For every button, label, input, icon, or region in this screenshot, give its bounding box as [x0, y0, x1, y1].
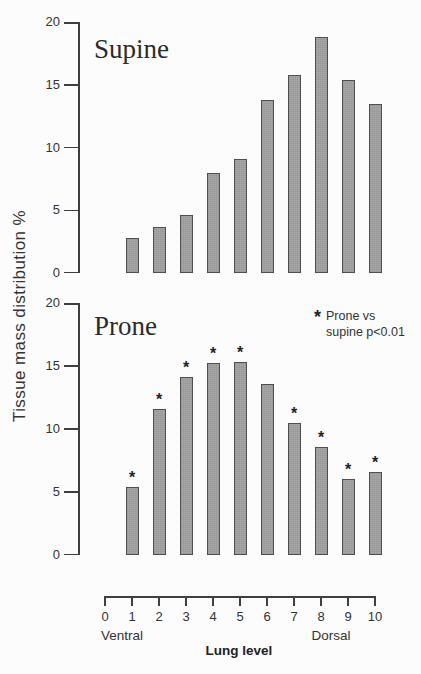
- bar-level-10: [369, 472, 382, 555]
- y-tick: [64, 365, 78, 367]
- y-tick-label: 15: [32, 77, 60, 93]
- bar-level-4: [207, 173, 220, 273]
- significance-asterisk: *: [230, 346, 250, 359]
- significance-asterisk: *: [122, 471, 142, 484]
- prone-plot: 05101520*********: [0, 303, 421, 555]
- y-tick-label: 10: [32, 140, 60, 156]
- significance-asterisk: *: [311, 431, 331, 444]
- bar-level-8: [315, 37, 328, 273]
- asterisk-icon: *: [314, 308, 321, 340]
- bar-level-4: [207, 363, 220, 555]
- x-tick-label: 4: [202, 609, 224, 624]
- x-axis: Ventral Dorsal Lung level 012345678910: [0, 588, 421, 674]
- y-tick: [64, 554, 78, 556]
- y-tick: [64, 272, 78, 274]
- legend-line-1: Prone vs: [326, 309, 375, 323]
- x-tick-label: 1: [121, 609, 143, 624]
- legend-line-2: supine p<0.01: [326, 325, 405, 339]
- x-tick-label: 9: [337, 609, 359, 624]
- x-tick: [185, 596, 187, 606]
- prone-panel: Prone * Prone vs supine p<0.01 05101520*…: [0, 303, 421, 555]
- supine-panel: Supine 05101520: [0, 22, 421, 273]
- y-tick: [64, 147, 78, 149]
- x-tick: [266, 596, 268, 606]
- significance-asterisk: *: [284, 407, 304, 420]
- x-tick-label: 6: [256, 609, 278, 624]
- significance-asterisk: *: [149, 393, 169, 406]
- x-tick-label: 2: [148, 609, 170, 624]
- x-axis-label: Lung level: [169, 643, 309, 658]
- y-axis-line: [78, 22, 80, 273]
- y-tick: [64, 303, 78, 305]
- significance-asterisk: *: [203, 347, 223, 360]
- bar-level-1: [126, 487, 139, 555]
- bar-level-8: [315, 447, 328, 555]
- x-tick-label: 0: [94, 609, 116, 624]
- significance-asterisk: *: [365, 456, 385, 469]
- y-axis-line: [78, 303, 80, 555]
- bar-level-7: [288, 423, 301, 555]
- y-tick: [64, 84, 78, 86]
- bar-level-6: [261, 100, 274, 273]
- x-tick: [212, 596, 214, 606]
- bar-level-3: [180, 377, 193, 555]
- significance-asterisk: *: [338, 463, 358, 476]
- significance-legend: * Prone vs supine p<0.01: [314, 308, 405, 340]
- bar-level-6: [261, 384, 274, 555]
- x-tick-label: 8: [310, 609, 332, 624]
- bar-level-9: [342, 479, 355, 555]
- x-axis-caption-dorsal: Dorsal: [296, 628, 366, 643]
- bar-level-7: [288, 75, 301, 273]
- y-tick: [64, 210, 78, 212]
- x-tick: [293, 596, 295, 606]
- y-tick-label: 15: [32, 358, 60, 374]
- y-tick-label: 20: [32, 295, 60, 311]
- bar-level-2: [153, 227, 166, 273]
- x-tick: [131, 596, 133, 606]
- legend-text: Prone vs supine p<0.01: [326, 308, 405, 340]
- y-tick: [64, 22, 78, 24]
- bar-level-9: [342, 80, 355, 273]
- x-tick: [320, 596, 322, 606]
- x-tick-label: 10: [364, 609, 386, 624]
- prone-title: Prone: [94, 311, 157, 342]
- y-tick: [64, 428, 78, 430]
- y-tick-label: 10: [32, 421, 60, 437]
- x-tick: [239, 596, 241, 606]
- y-tick-label: 20: [32, 14, 60, 30]
- y-tick-label: 5: [32, 484, 60, 500]
- bar-level-10: [369, 104, 382, 273]
- bar-level-5: [234, 362, 247, 555]
- bar-level-3: [180, 215, 193, 273]
- x-tick: [374, 596, 376, 606]
- supine-plot: 05101520: [0, 22, 421, 273]
- x-tick: [347, 596, 349, 606]
- supine-title: Supine: [94, 34, 169, 65]
- x-tick: [104, 596, 106, 606]
- bar-level-2: [153, 409, 166, 555]
- figure: Tissue mass distribution % Supine 051015…: [0, 0, 421, 674]
- x-tick-label: 7: [283, 609, 305, 624]
- x-tick: [158, 596, 160, 606]
- y-tick: [64, 491, 78, 493]
- x-tick-label: 5: [229, 609, 251, 624]
- x-tick-label: 3: [175, 609, 197, 624]
- x-axis-caption-ventral: Ventral: [87, 628, 157, 643]
- bar-level-5: [234, 159, 247, 273]
- significance-asterisk: *: [176, 361, 196, 374]
- y-tick-label: 5: [32, 202, 60, 218]
- y-tick-label: 0: [32, 547, 60, 563]
- y-tick-label: 0: [32, 265, 60, 281]
- bar-level-1: [126, 238, 139, 273]
